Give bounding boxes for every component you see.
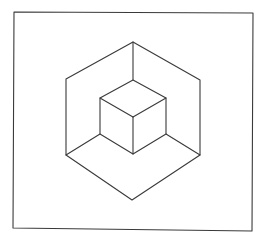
inner-cube-edge-left xyxy=(100,98,133,117)
floor-left-edge xyxy=(66,134,100,155)
inner-cube-edge-right xyxy=(133,98,166,117)
floor-right-edge xyxy=(166,134,200,155)
isometric-cube-figure xyxy=(0,0,267,243)
cube-drawing xyxy=(0,0,267,243)
